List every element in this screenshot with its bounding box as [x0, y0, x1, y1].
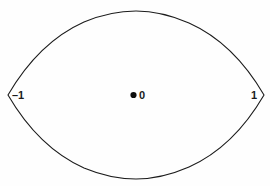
origin-marker-dot: [130, 92, 136, 98]
lens-curve-plot: [0, 0, 270, 186]
point-label-minus-one: –1: [12, 90, 24, 101]
figure-canvas: –1 0 1: [0, 0, 270, 186]
point-label-zero: 0: [139, 90, 145, 101]
point-label-one: 1: [251, 90, 257, 101]
